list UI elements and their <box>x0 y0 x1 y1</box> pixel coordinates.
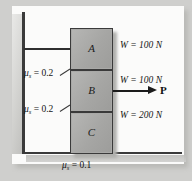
friction-label-ground: μs = 0.1 <box>62 160 91 171</box>
wall <box>22 12 25 154</box>
weight-label-c: W = 200 N <box>120 110 162 120</box>
mu-subscript-ab: s <box>29 72 32 79</box>
block-a-label: A <box>71 42 112 54</box>
mu-value-bc: 0.2 <box>41 104 53 114</box>
mu-subscript-bc: s <box>29 108 32 115</box>
block-b-label: B <box>71 84 112 96</box>
weight-c-text: W = 200 N <box>120 110 162 120</box>
mu-equals-ab: = <box>34 68 39 78</box>
block-a: A <box>70 28 113 70</box>
figure-canvas: A B C P W = 100 N W = 100 N W = 200 N μs… <box>0 0 192 181</box>
block-c: C <box>70 112 113 154</box>
cable-to-wall <box>24 48 71 50</box>
mu-equals-ground: = <box>72 160 77 170</box>
mu-equals-bc: = <box>34 104 39 114</box>
mu-subscript-ground: s <box>67 164 70 171</box>
force-p-arrow-head <box>148 86 157 94</box>
force-p-label: P <box>160 84 167 96</box>
friction-label-ab: μs = 0.2 <box>24 68 53 79</box>
weight-a-text: W = 100 N <box>120 40 162 50</box>
weight-b-text: W = 100 N <box>120 75 162 85</box>
weight-label-b: W = 100 N <box>120 75 162 85</box>
block-b: B <box>70 70 113 112</box>
weight-label-a: W = 100 N <box>120 40 162 50</box>
mu-value-ab: 0.2 <box>41 68 53 78</box>
block-c-label: C <box>71 126 112 138</box>
mu-value-ground: 0.1 <box>79 160 91 170</box>
force-p-arrow-line <box>113 90 151 92</box>
friction-label-bc: μs = 0.2 <box>24 104 53 115</box>
